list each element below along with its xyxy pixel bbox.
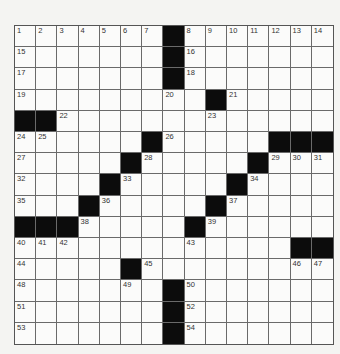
grid-cell[interactable]: [163, 111, 184, 132]
grid-cell[interactable]: [291, 174, 312, 195]
grid-cell[interactable]: [269, 280, 290, 301]
grid-cell[interactable]: [36, 302, 57, 323]
grid-cell[interactable]: 19: [15, 90, 36, 111]
grid-cell[interactable]: [248, 196, 269, 217]
grid-cell[interactable]: [312, 90, 333, 111]
grid-cell[interactable]: [57, 132, 78, 153]
grid-cell[interactable]: [121, 47, 142, 68]
grid-cell[interactable]: 52: [185, 302, 206, 323]
grid-cell[interactable]: [206, 153, 227, 174]
grid-cell[interactable]: [227, 132, 248, 153]
grid-cell[interactable]: 51: [15, 302, 36, 323]
grid-cell[interactable]: 17: [15, 68, 36, 89]
grid-cell[interactable]: [36, 47, 57, 68]
grid-cell[interactable]: 11: [248, 26, 269, 47]
grid-cell[interactable]: [248, 259, 269, 280]
grid-cell[interactable]: [291, 90, 312, 111]
grid-cell[interactable]: 24: [15, 132, 36, 153]
grid-cell[interactable]: [291, 47, 312, 68]
grid-cell[interactable]: 42: [57, 238, 78, 259]
grid-cell[interactable]: 32: [15, 174, 36, 195]
grid-cell[interactable]: [36, 90, 57, 111]
grid-cell[interactable]: [142, 238, 163, 259]
grid-cell[interactable]: [121, 90, 142, 111]
grid-cell[interactable]: [269, 259, 290, 280]
grid-cell[interactable]: [185, 111, 206, 132]
grid-cell[interactable]: [79, 238, 100, 259]
grid-cell[interactable]: [79, 302, 100, 323]
grid-cell[interactable]: [100, 238, 121, 259]
grid-cell[interactable]: [227, 68, 248, 89]
grid-cell[interactable]: [248, 47, 269, 68]
grid-cell[interactable]: [142, 174, 163, 195]
grid-cell[interactable]: [100, 217, 121, 238]
grid-cell[interactable]: [142, 302, 163, 323]
grid-cell[interactable]: [163, 217, 184, 238]
grid-cell[interactable]: [36, 280, 57, 301]
grid-cell[interactable]: 48: [15, 280, 36, 301]
grid-cell[interactable]: [291, 68, 312, 89]
grid-cell[interactable]: 38: [79, 217, 100, 238]
grid-cell[interactable]: [121, 238, 142, 259]
grid-cell[interactable]: [57, 68, 78, 89]
grid-cell[interactable]: 1: [15, 26, 36, 47]
grid-cell[interactable]: [79, 259, 100, 280]
grid-cell[interactable]: 2: [36, 26, 57, 47]
grid-cell[interactable]: [79, 68, 100, 89]
grid-cell[interactable]: [248, 111, 269, 132]
grid-cell[interactable]: [121, 196, 142, 217]
grid-cell[interactable]: [100, 68, 121, 89]
grid-cell[interactable]: [185, 153, 206, 174]
grid-cell[interactable]: [312, 68, 333, 89]
grid-cell[interactable]: [269, 323, 290, 344]
grid-cell[interactable]: [142, 111, 163, 132]
grid-cell[interactable]: 12: [269, 26, 290, 47]
grid-cell[interactable]: [163, 196, 184, 217]
grid-cell[interactable]: 18: [185, 68, 206, 89]
grid-cell[interactable]: [100, 302, 121, 323]
grid-cell[interactable]: 26: [163, 132, 184, 153]
grid-cell[interactable]: [206, 238, 227, 259]
grid-cell[interactable]: [269, 90, 290, 111]
grid-cell[interactable]: 41: [36, 238, 57, 259]
grid-cell[interactable]: 14: [312, 26, 333, 47]
grid-cell[interactable]: 45: [142, 259, 163, 280]
grid-cell[interactable]: [227, 302, 248, 323]
grid-cell[interactable]: [291, 217, 312, 238]
grid-cell[interactable]: 37: [227, 196, 248, 217]
grid-cell[interactable]: [79, 90, 100, 111]
grid-cell[interactable]: 16: [185, 47, 206, 68]
grid-cell[interactable]: 39: [206, 217, 227, 238]
grid-cell[interactable]: 30: [291, 153, 312, 174]
grid-cell[interactable]: [36, 174, 57, 195]
grid-cell[interactable]: [121, 302, 142, 323]
grid-cell[interactable]: [206, 302, 227, 323]
grid-cell[interactable]: [185, 174, 206, 195]
grid-cell[interactable]: [79, 111, 100, 132]
grid-cell[interactable]: [100, 280, 121, 301]
grid-cell[interactable]: 47: [312, 259, 333, 280]
grid-cell[interactable]: [121, 217, 142, 238]
grid-cell[interactable]: [163, 238, 184, 259]
grid-cell[interactable]: 35: [15, 196, 36, 217]
grid-cell[interactable]: [36, 153, 57, 174]
grid-cell[interactable]: 13: [291, 26, 312, 47]
grid-cell[interactable]: 53: [15, 323, 36, 344]
grid-cell[interactable]: [121, 111, 142, 132]
grid-cell[interactable]: [57, 174, 78, 195]
grid-cell[interactable]: [291, 323, 312, 344]
grid-cell[interactable]: [227, 259, 248, 280]
grid-cell[interactable]: [57, 302, 78, 323]
grid-cell[interactable]: [185, 196, 206, 217]
grid-cell[interactable]: [269, 174, 290, 195]
grid-cell[interactable]: [269, 302, 290, 323]
grid-cell[interactable]: 27: [15, 153, 36, 174]
grid-cell[interactable]: [57, 153, 78, 174]
grid-cell[interactable]: [206, 259, 227, 280]
grid-cell[interactable]: [79, 47, 100, 68]
grid-cell[interactable]: 54: [185, 323, 206, 344]
grid-cell[interactable]: [142, 47, 163, 68]
grid-cell[interactable]: 9: [206, 26, 227, 47]
grid-cell[interactable]: 4: [79, 26, 100, 47]
grid-cell[interactable]: 15: [15, 47, 36, 68]
